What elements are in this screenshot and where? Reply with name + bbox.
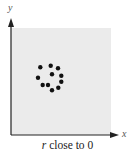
data-point: [49, 63, 53, 67]
data-point: [59, 80, 63, 84]
chart-caption: r close to 0: [0, 139, 135, 151]
caption-text: close to 0: [46, 139, 93, 151]
data-point: [56, 66, 60, 70]
x-axis-label: x: [122, 128, 126, 139]
data-point: [46, 83, 50, 87]
data-point: [41, 83, 45, 87]
data-point: [38, 65, 42, 69]
y-axis-label: y: [8, 2, 12, 13]
data-point: [50, 72, 54, 76]
data-point: [56, 86, 60, 90]
data-point: [50, 88, 54, 92]
x-axis-arrow-icon: [110, 132, 119, 138]
y-axis-arrow-icon: [8, 18, 14, 27]
scatter-plot: [0, 0, 135, 161]
data-point: [59, 74, 63, 78]
data-point: [36, 76, 40, 80]
